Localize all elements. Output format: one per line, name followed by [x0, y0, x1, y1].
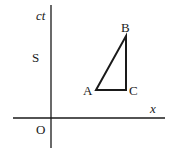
x-axis-label: x — [149, 101, 156, 116]
point-a-label: A — [83, 83, 93, 98]
point-c-label: C — [129, 83, 138, 98]
triangle-abc — [96, 36, 126, 90]
point-b-label: B — [121, 20, 130, 35]
spacetime-diagram: ct S O x A B C — [0, 0, 173, 157]
ct-axis-label: ct — [36, 8, 46, 23]
frame-label: S — [32, 50, 39, 65]
origin-label: O — [36, 122, 45, 137]
